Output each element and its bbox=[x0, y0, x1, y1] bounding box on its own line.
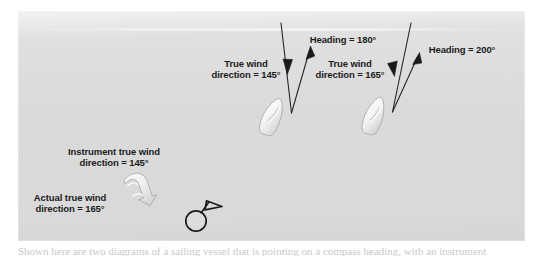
label-actual-true-wind: Actual true wind direction = 165° bbox=[24, 192, 116, 214]
panel-highlight-streak bbox=[18, 28, 525, 31]
label-actual-line1: Actual true wind bbox=[34, 192, 106, 203]
figure-container: True wind direction = 145° Heading = 180… bbox=[0, 0, 555, 256]
label-true-wind-2-line1: True wind bbox=[328, 58, 371, 69]
label-heading-1: Heading = 180° bbox=[303, 34, 383, 45]
label-true-wind-1: True wind direction = 145° bbox=[206, 58, 286, 80]
caption-text: Shown here are two diagrams of a sailing… bbox=[18, 247, 523, 256]
label-instrument-line1: Instrument true wind bbox=[68, 146, 160, 157]
label-true-wind-1-line2: direction = 145° bbox=[212, 69, 281, 80]
label-heading-2-text: Heading = 200° bbox=[429, 44, 496, 55]
label-actual-line2: direction = 165° bbox=[36, 203, 105, 214]
caption-strip: Shown here are two diagrams of a sailing… bbox=[18, 247, 523, 256]
label-true-wind-2-line2: direction = 165° bbox=[316, 69, 385, 80]
label-heading-2: Heading = 200° bbox=[421, 44, 503, 55]
label-true-wind-1-line1: True wind bbox=[224, 58, 267, 69]
label-true-wind-2: True wind direction = 165° bbox=[310, 58, 390, 80]
label-instrument-true-wind: Instrument true wind direction = 145° bbox=[58, 146, 170, 168]
label-heading-1-text: Heading = 180° bbox=[310, 34, 377, 45]
label-instrument-line2: direction = 145° bbox=[80, 157, 149, 168]
